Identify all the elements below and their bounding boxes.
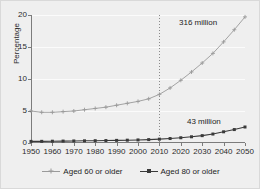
x-tick-label: 2050 (236, 148, 254, 156)
data-point-marker (125, 101, 129, 105)
data-point-marker (136, 99, 140, 103)
data-point-marker (72, 139, 75, 142)
legend-marker-square-icon (140, 168, 158, 176)
x-tick-mark (202, 143, 203, 146)
data-point-marker (115, 139, 118, 142)
y-tick-mark (28, 79, 31, 80)
x-tick-label: 2010 (150, 148, 168, 156)
y-tick-label: 0 (23, 139, 27, 147)
x-tick-label: 2040 (215, 148, 233, 156)
legend-label-aged-80: Aged 80 or older (161, 167, 220, 176)
data-point-marker (233, 128, 236, 131)
data-point-marker (201, 134, 204, 137)
data-point-marker (137, 138, 140, 141)
x-tick-mark (52, 143, 53, 146)
data-point-marker (222, 130, 225, 133)
y-tick-mark (28, 111, 31, 112)
data-point-marker (157, 92, 161, 96)
x-tick-mark (95, 143, 96, 146)
legend-entry-aged-80[interactable]: Aged 80 or older (140, 167, 220, 176)
data-point-marker (72, 109, 76, 113)
annotation-43-million: 43 million (187, 118, 221, 126)
data-point-marker (190, 135, 193, 138)
data-point-marker (94, 139, 97, 142)
data-point-marker (83, 108, 87, 112)
x-tick-label: 2000 (129, 148, 147, 156)
x-tick-label: 1950 (22, 148, 40, 156)
annotation-316-million: 316 million (179, 19, 217, 27)
y-tick-label: 5 (23, 107, 27, 115)
x-tick-mark (138, 143, 139, 146)
data-point-marker (211, 133, 214, 136)
data-point-marker (104, 139, 107, 142)
x-tick-label: 1960 (43, 148, 61, 156)
data-point-marker (40, 140, 43, 143)
chart-figure: 05101520 1950196019701980199020002010202… (0, 0, 260, 189)
data-point-marker (40, 110, 44, 114)
legend-entry-aged-60[interactable]: Aged 60 or older (42, 167, 122, 176)
data-point-marker (147, 97, 151, 101)
data-point-marker (115, 103, 119, 107)
x-tick-mark (181, 143, 182, 146)
data-point-marker (158, 138, 161, 141)
data-point-marker (50, 110, 54, 114)
legend-label-aged-60: Aged 60 or older (63, 167, 122, 176)
x-tick-label: 1980 (86, 148, 104, 156)
y-tick-mark (28, 47, 31, 48)
x-tick-label: 1990 (108, 148, 126, 156)
data-point-marker (104, 105, 108, 109)
y-axis-label: Percentage (12, 0, 21, 89)
x-tick-label: 1970 (65, 148, 83, 156)
x-tick-label: 2020 (172, 148, 190, 156)
x-tick-label: 2030 (193, 148, 211, 156)
legend-marker-plus-icon (42, 168, 60, 176)
y-tick-mark (28, 15, 31, 16)
data-point-marker (126, 139, 129, 142)
data-point-marker (169, 137, 172, 140)
data-point-marker (179, 136, 182, 139)
x-tick-mark (74, 143, 75, 146)
x-tick-mark (224, 143, 225, 146)
data-point-marker (244, 126, 247, 129)
x-tick-mark (159, 143, 160, 146)
data-point-marker (93, 106, 97, 110)
data-point-marker (147, 138, 150, 141)
chart-legend: Aged 60 or older Aged 80 or older (1, 167, 260, 176)
data-point-marker (61, 110, 65, 114)
series-line-1 (31, 17, 245, 112)
x-tick-mark (117, 143, 118, 146)
x-tick-mark (245, 143, 246, 146)
x-tick-mark (31, 143, 32, 146)
data-point-marker (83, 139, 86, 142)
data-point-marker (62, 140, 65, 143)
